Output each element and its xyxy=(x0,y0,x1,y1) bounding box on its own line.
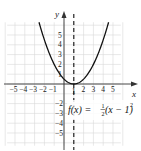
y-axis-arrow-icon xyxy=(62,11,67,18)
x-tick-label: −2 xyxy=(39,85,47,94)
y-tick-label: 2 xyxy=(58,60,62,69)
eq-paren-x: (x) = xyxy=(71,104,91,116)
y-tick-label: −4 xyxy=(55,119,63,128)
x-axis-arrow-icon xyxy=(131,82,138,87)
x-axis-label: x xyxy=(131,89,136,99)
axes xyxy=(4,11,138,150)
x-tick-label: 4 xyxy=(101,85,105,94)
function-equation-label: f(x) = 1 2 (x − 1) 2 xyxy=(67,100,139,120)
x-tick-label: 5 xyxy=(111,85,115,94)
y-tick-label: −3 xyxy=(55,109,63,118)
x-tick-labels: −5−4−3−2−112345 xyxy=(10,85,116,96)
y-tick-label: 3 xyxy=(58,50,62,59)
x-tick-label: −5 xyxy=(10,85,18,94)
y-tick-label: 4 xyxy=(58,40,62,49)
y-tick-label: −5 xyxy=(55,129,63,138)
x-tick-label: −1 xyxy=(49,85,57,94)
y-tick-label: 5 xyxy=(58,31,62,40)
x-tick-label: −4 xyxy=(19,85,27,94)
y-axis-label: y xyxy=(54,9,59,19)
svg-text:f(x) =: f(x) = xyxy=(68,104,91,116)
eq-exponent: 2 xyxy=(130,102,133,108)
x-tick-label: 3 xyxy=(91,85,95,94)
y-tick-label: −2 xyxy=(55,99,63,108)
parabola-graph: x y −5−4−3−2−112345 54321−2−3−4−5 f(x) =… xyxy=(0,0,141,151)
x-tick-label: −3 xyxy=(29,85,37,94)
x-tick-label: 2 xyxy=(82,85,86,94)
